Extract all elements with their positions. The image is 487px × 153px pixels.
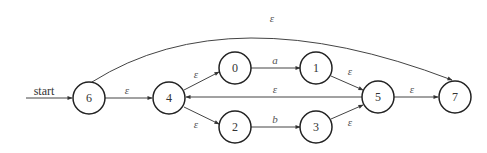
edge-label: ε — [410, 83, 415, 95]
state-7: 7 — [439, 81, 471, 113]
edge-6-to-7: ε — [92, 12, 452, 82]
state-label: 2 — [232, 120, 238, 134]
state-label: 7 — [452, 90, 458, 104]
edge-3-to-5: ε — [331, 105, 363, 128]
state-label: 1 — [313, 61, 319, 75]
state-label: 5 — [375, 90, 381, 104]
edge-label: ε — [348, 65, 353, 77]
start-arrow: start — [26, 84, 72, 98]
state-3: 3 — [300, 111, 332, 143]
state-label: 4 — [166, 91, 172, 105]
edge-5-to-4: ε — [186, 83, 362, 97]
state-label: 0 — [232, 61, 238, 75]
state-2: 2 — [219, 111, 251, 143]
edge-label: ε — [194, 68, 199, 80]
edge-label: ε — [125, 84, 130, 96]
edge-5-to-7: ε — [394, 83, 438, 97]
edge-label: ε — [194, 118, 199, 130]
edge-6-to-4: ε — [105, 84, 152, 98]
edge-4-to-0: ε — [184, 68, 219, 90]
edge-label: ε — [348, 116, 353, 128]
edge-1-to-5: ε — [331, 65, 363, 90]
state-label: 3 — [313, 120, 319, 134]
edge-4-to-2: ε — [184, 107, 219, 130]
nfa-diagram: start ε ε ε a b ε ε ε ε — [0, 0, 487, 153]
state-4: 4 — [153, 82, 185, 114]
edge-2-to-3: b — [251, 113, 300, 127]
state-6: 6 — [73, 82, 105, 114]
start-label: start — [34, 84, 55, 98]
state-0: 0 — [219, 52, 251, 84]
edge-label: a — [272, 54, 278, 66]
edge-0-to-1: a — [251, 54, 300, 68]
state-label: 6 — [86, 91, 92, 105]
edge-label: ε — [270, 12, 275, 24]
state-5: 5 — [362, 81, 394, 113]
edge-label: ε — [273, 83, 278, 95]
state-1: 1 — [300, 52, 332, 84]
edge-label: b — [272, 113, 278, 125]
